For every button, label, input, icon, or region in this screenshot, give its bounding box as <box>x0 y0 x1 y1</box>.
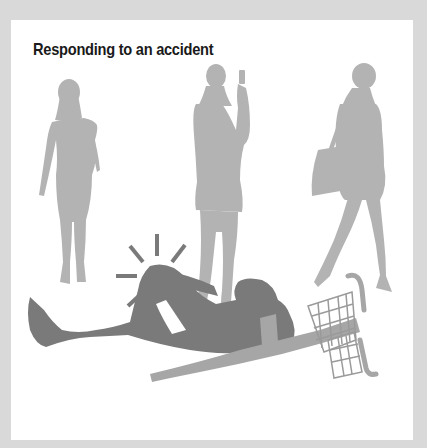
woman-taking-photo-silhouette <box>193 64 250 315</box>
accident-illustration <box>0 0 427 448</box>
woman-with-handbag-silhouette <box>312 63 392 292</box>
woman-walking-silhouette <box>39 79 100 284</box>
